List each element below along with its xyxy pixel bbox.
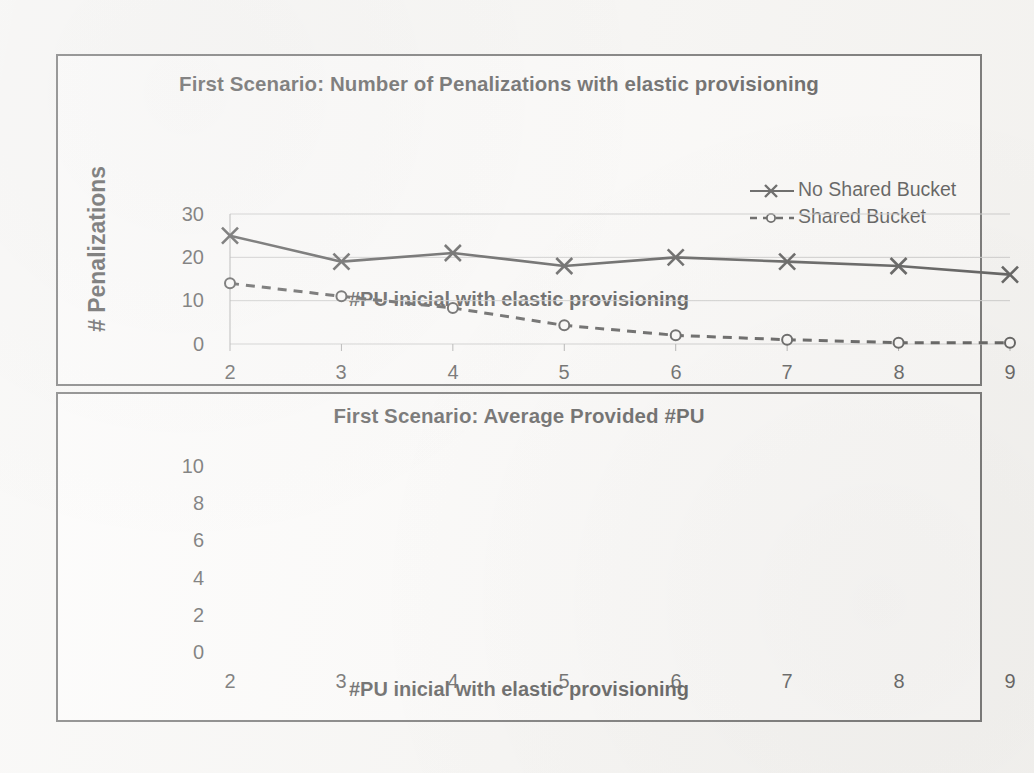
legend-marker-cross-icon [748,181,796,199]
x-tick-8: 8 [879,361,919,384]
plot-area-penalizations [230,214,1010,344]
x-tick-4: 4 [433,361,473,384]
x-tick-5: 5 [544,361,584,384]
x-tick-8: 8 [879,670,919,693]
x-tick-4: 4 [433,670,473,693]
y-tick-8: 8 [158,492,204,515]
y-tick-0: 0 [158,333,204,356]
y-tick-4: 4 [158,567,204,590]
chart-title-average-provided-pu: First Scenario: Average Provided #PU [58,404,980,428]
x-tick-6: 6 [656,670,696,693]
chart-title-penalizations: First Scenario: Number of Penalizations … [58,72,980,96]
scanned-page: First Scenario: Number of Penalizations … [0,0,1034,773]
x-tick-2: 2 [210,670,250,693]
y-tick-20: 20 [158,246,204,269]
x-tick-5: 5 [544,670,584,693]
x-tick-9: 9 [990,670,1030,693]
y-tick-10: 10 [158,289,204,312]
legend-label-no-shared-bucket: No Shared Bucket [798,177,956,202]
y-tick-30: 30 [158,203,204,226]
x-tick-3: 3 [321,361,361,384]
x-tick-2: 2 [210,361,250,384]
y-tick-6: 6 [158,529,204,552]
x-tick-9: 9 [990,361,1030,384]
chart-panel-penalizations: First Scenario: Number of Penalizations … [56,54,982,386]
x-tick-7: 7 [767,670,807,693]
y-tick-0: 0 [158,641,204,664]
legend-item-no-shared-bucket: No Shared Bucket [748,176,956,203]
chart-panel-average-provided-pu: First Scenario: Average Provided #PU Ave… [56,392,982,722]
x-tick-6: 6 [656,361,696,384]
y-tick-10: 10 [158,455,204,478]
x-axis-label-average-provided-pu: #PU inicial with elastic provisioning [58,678,980,701]
y-tick-2: 2 [158,604,204,627]
x-tick-3: 3 [321,670,361,693]
x-tick-7: 7 [767,361,807,384]
